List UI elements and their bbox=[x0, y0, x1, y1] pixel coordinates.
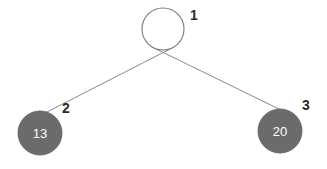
node-root-circle[interactable] bbox=[142, 8, 184, 50]
node-right[interactable]: 20 bbox=[258, 109, 302, 153]
node-root-id-label: 1 bbox=[190, 7, 198, 23]
node-left-id-label: 2 bbox=[62, 100, 70, 116]
node-left[interactable]: 13 bbox=[18, 111, 62, 155]
node-right-id-label: 3 bbox=[302, 97, 310, 113]
node-right-value: 20 bbox=[273, 124, 287, 139]
node-root[interactable] bbox=[142, 8, 184, 50]
tree-diagram-svg: 1 13 2 20 3 bbox=[0, 0, 327, 169]
edge-1-to-3 bbox=[152, 47, 281, 110]
edge-group bbox=[45, 47, 281, 113]
node-left-value: 13 bbox=[33, 126, 47, 141]
tree-diagram-canvas: 1 13 2 20 3 bbox=[0, 0, 327, 169]
